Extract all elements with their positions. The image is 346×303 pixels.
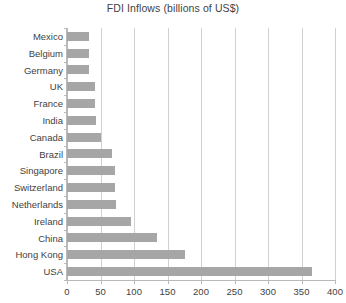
bar-row	[67, 213, 335, 230]
category-label-france: France	[33, 98, 63, 109]
bar-hong-kong	[67, 250, 185, 259]
value-tick	[201, 280, 202, 284]
bar-ireland	[67, 217, 131, 226]
bar-india	[67, 116, 96, 125]
bar-row	[67, 146, 335, 163]
category-label-germany: Germany	[24, 65, 63, 76]
bar-row	[67, 78, 335, 95]
fdi-inflows-bar-chart: FDI Inflows (billions of US$) MexicoBelg…	[0, 0, 346, 303]
bar-row	[67, 179, 335, 196]
category-label-hong-kong: Hong Kong	[15, 249, 63, 260]
category-label-brazil: Brazil	[39, 149, 63, 160]
value-tick	[67, 280, 68, 284]
bar-row	[67, 45, 335, 62]
category-axis: MexicoBelgiumGermanyUKFranceIndiaCanadaB…	[0, 28, 67, 280]
bar-mexico	[67, 32, 89, 41]
category-label-mexico: Mexico	[33, 31, 63, 42]
bar-row	[67, 112, 335, 129]
bar-france	[67, 99, 95, 108]
bar-row	[67, 162, 335, 179]
value-tick-label: 350	[294, 286, 310, 297]
chart-title: FDI Inflows (billions of US$)	[0, 2, 346, 15]
category-label-uk: UK	[50, 81, 63, 92]
bar-canada	[67, 133, 101, 142]
plot-area	[67, 28, 335, 280]
value-tick	[101, 280, 102, 284]
category-label-canada: Canada	[30, 132, 63, 143]
value-tick	[235, 280, 236, 284]
bar-brazil	[67, 149, 112, 158]
bar-china	[67, 233, 157, 242]
bar-row	[67, 62, 335, 79]
value-tick-label: 200	[193, 286, 209, 297]
value-tick	[302, 280, 303, 284]
value-tick-label: 400	[327, 286, 343, 297]
bar-switzerland	[67, 183, 115, 192]
category-label-switzerland: Switzerland	[14, 182, 63, 193]
bar-belgium	[67, 49, 89, 58]
bar-uk	[67, 82, 95, 91]
value-tick-label: 50	[95, 286, 106, 297]
bar-singapore	[67, 166, 115, 175]
category-label-singapore: Singapore	[20, 165, 63, 176]
value-tick	[268, 280, 269, 284]
bar-row	[67, 230, 335, 247]
bar-series	[67, 28, 335, 280]
bar-germany	[67, 65, 89, 74]
category-label-netherlands: Netherlands	[12, 199, 63, 210]
value-tick-label: 100	[126, 286, 142, 297]
value-tick	[335, 280, 336, 284]
category-label-india: India	[42, 115, 63, 126]
bar-row	[67, 246, 335, 263]
category-label-belgium: Belgium	[29, 48, 63, 59]
category-label-ireland: Ireland	[34, 216, 63, 227]
bar-row	[67, 95, 335, 112]
value-tick-label: 250	[227, 286, 243, 297]
value-axis: 050100150200250300350400	[67, 280, 335, 303]
bar-row	[67, 28, 335, 45]
bar-netherlands	[67, 200, 116, 209]
category-label-china: China	[38, 233, 63, 244]
category-label-usa: USA	[43, 266, 63, 277]
value-tick	[168, 280, 169, 284]
value-tick	[134, 280, 135, 284]
gridline	[335, 28, 336, 280]
value-tick-label: 150	[160, 286, 176, 297]
value-tick-label: 300	[260, 286, 276, 297]
value-tick-label: 0	[64, 286, 69, 297]
bar-row	[67, 196, 335, 213]
bar-row	[67, 263, 335, 280]
bar-usa	[67, 267, 312, 276]
bar-row	[67, 129, 335, 146]
